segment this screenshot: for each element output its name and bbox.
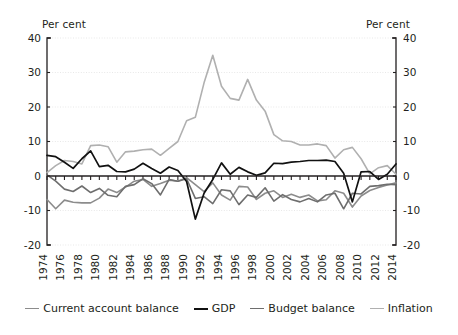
chart-legend: Current account balanceGDPBudget balance… <box>0 303 458 314</box>
x-tick-label: 2008 <box>334 254 346 281</box>
x-tick-label: 1980 <box>89 254 101 281</box>
x-tick-label: 1978 <box>72 254 84 281</box>
x-tick-label: 1988 <box>159 254 171 281</box>
series-line <box>47 55 396 174</box>
legend-label: GDP <box>212 303 236 314</box>
y-tick-label-left: 40 <box>28 32 41 44</box>
data-series <box>47 55 396 219</box>
x-tick-label: 1996 <box>229 254 241 281</box>
chart-container: Per cent Per cent -20-10010203040 -20-10… <box>0 0 458 335</box>
y-tick-label-left: -10 <box>24 204 41 216</box>
y-tick-label-left: 30 <box>28 66 41 78</box>
x-tick-label: 2000 <box>264 254 276 281</box>
x-tick-label: 1990 <box>177 254 189 281</box>
x-tick-label: 2012 <box>369 254 381 281</box>
x-tick-label: 1984 <box>124 254 136 281</box>
legend-item[interactable]: GDP <box>194 303 236 314</box>
legend-line-swatch <box>194 308 208 310</box>
y-tick-label-left: 20 <box>28 101 41 113</box>
x-tick-label: 2002 <box>281 254 293 281</box>
legend-line-swatch <box>370 308 384 309</box>
x-tick-label: 2014 <box>386 254 398 281</box>
x-tick-label: 1986 <box>142 254 154 281</box>
legend-label: Inflation <box>388 303 433 314</box>
x-tick-label: 2010 <box>351 254 363 281</box>
y-axis-right: -20-10010203040 <box>392 32 420 251</box>
y-tick-label-right: 20 <box>403 101 416 113</box>
y-tick-label-right: 30 <box>403 66 416 78</box>
y-tick-label-left: -20 <box>24 239 41 251</box>
gridlines <box>47 38 396 245</box>
legend-line-swatch <box>25 308 39 309</box>
legend-line-swatch <box>250 308 264 309</box>
series-line <box>47 175 396 209</box>
y-tick-label-right: -20 <box>403 239 420 251</box>
y-tick-label-right: 10 <box>403 135 416 147</box>
line-chart-plot: -20-10010203040 -20-10010203040 19741976… <box>0 0 458 335</box>
y-tick-label-right: -10 <box>403 204 420 216</box>
x-tick-label: 1994 <box>212 254 224 281</box>
y-tick-label-left: 0 <box>34 170 41 182</box>
y-tick-label-right: 0 <box>403 170 410 182</box>
y-axis-left: -20-10010203040 <box>24 32 51 251</box>
x-tick-label: 1974 <box>37 254 49 281</box>
legend-item[interactable]: Inflation <box>370 303 433 314</box>
x-tick-label: 1982 <box>107 254 119 281</box>
x-tick-label: 1992 <box>194 254 206 281</box>
y-tick-label-left: 10 <box>28 135 41 147</box>
series-line <box>47 178 396 209</box>
y-tick-label-right: 40 <box>403 32 416 44</box>
x-tick-label: 2004 <box>299 254 311 281</box>
legend-item[interactable]: Budget balance <box>250 303 354 314</box>
legend-label: Current account balance <box>43 303 178 314</box>
x-tick-label: 1976 <box>54 254 66 281</box>
x-tick-label: 2006 <box>316 254 328 281</box>
legend-label: Budget balance <box>268 303 354 314</box>
x-tick-label: 1998 <box>246 254 258 281</box>
legend-item[interactable]: Current account balance <box>25 303 178 314</box>
